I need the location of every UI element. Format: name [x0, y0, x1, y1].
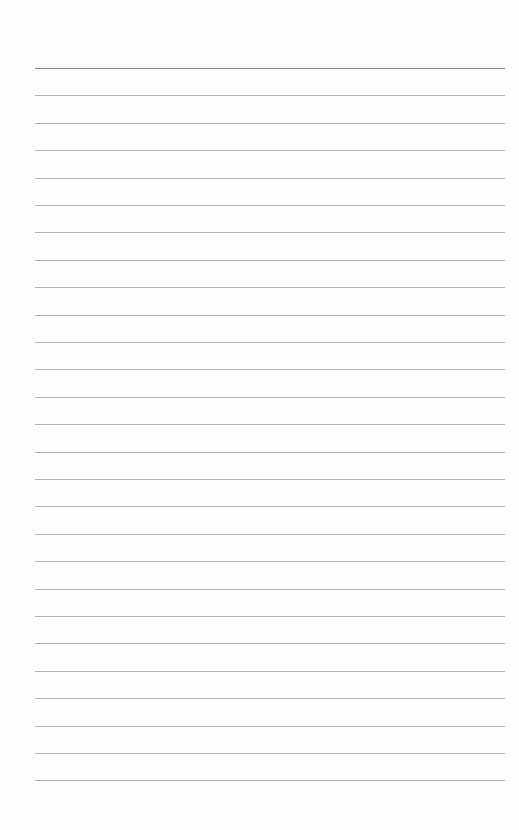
top-rule-line — [35, 68, 505, 69]
rule-line — [35, 205, 505, 206]
rule-line — [35, 369, 505, 370]
rule-line — [35, 424, 505, 425]
rule-line — [35, 260, 505, 261]
rule-line — [35, 589, 505, 590]
rule-line — [35, 342, 505, 343]
rule-line — [35, 698, 505, 699]
rule-line — [35, 753, 505, 754]
rule-line — [35, 616, 505, 617]
rule-line — [35, 726, 505, 727]
rule-line — [35, 287, 505, 288]
rule-line — [35, 123, 505, 124]
rule-line — [35, 643, 505, 644]
rule-line — [35, 671, 505, 672]
rule-line — [35, 506, 505, 507]
rule-line — [35, 95, 505, 96]
rule-line — [35, 780, 505, 781]
rule-line — [35, 232, 505, 233]
rule-line — [35, 150, 505, 151]
rule-line — [35, 479, 505, 480]
rule-line — [35, 561, 505, 562]
rule-line — [35, 452, 505, 453]
rule-line — [35, 315, 505, 316]
rule-line — [35, 534, 505, 535]
rule-line — [35, 397, 505, 398]
lined-paper-page — [0, 0, 519, 830]
rule-line — [35, 178, 505, 179]
